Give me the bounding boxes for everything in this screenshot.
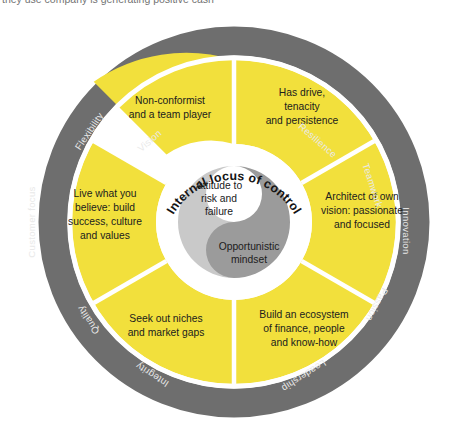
svg-text:Non-conformist: Non-conformist — [135, 95, 205, 106]
svg-text:failure: failure — [205, 206, 233, 217]
svg-text:success, culture: success, culture — [68, 216, 142, 227]
svg-text:and know-how: and know-how — [271, 337, 338, 348]
svg-text:and a team player: and a team player — [129, 109, 212, 120]
svg-text:Architect of own: Architect of own — [325, 191, 399, 202]
svg-text:Has drive,: Has drive, — [279, 87, 325, 98]
ring-label-customer-focus[interactable]: Customer focus — [26, 186, 37, 257]
svg-text:Attitude to: Attitude to — [196, 180, 243, 191]
diagram-page: they use company is generating positive … — [0, 0, 466, 431]
svg-text:believe: build: believe: build — [75, 202, 135, 213]
svg-text:mindset: mindset — [231, 254, 267, 265]
svg-text:Opportunistic: Opportunistic — [219, 241, 280, 252]
svg-text:and values: and values — [80, 230, 130, 241]
svg-text:Seek out niches: Seek out niches — [129, 313, 202, 324]
svg-text:of finance, people: of finance, people — [263, 323, 345, 334]
svg-text:Build an ecosystem: Build an ecosystem — [259, 309, 348, 320]
ring-label-innovation[interactable]: Innovation — [401, 207, 412, 254]
segment-label-build-ecosystem: Build an ecosystem of finance, people an… — [259, 309, 348, 348]
entrepreneurial-wheel-diagram: Internal locus of control Attitude to ri… — [0, 0, 466, 431]
svg-text:vision: passionate: vision: passionate — [321, 205, 403, 216]
svg-text:tenacity: tenacity — [284, 101, 320, 112]
svg-text:risk and: risk and — [201, 193, 237, 204]
svg-text:and focused: and focused — [334, 219, 390, 230]
svg-text:Live what you: Live what you — [74, 188, 137, 199]
svg-text:and market gaps: and market gaps — [128, 327, 205, 338]
